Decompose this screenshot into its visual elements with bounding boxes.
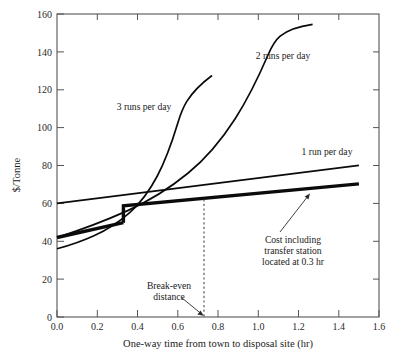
y-tick-20: 20 bbox=[42, 274, 52, 285]
x-tick-0.8: 0.8 bbox=[212, 321, 225, 332]
y-tick-100: 100 bbox=[37, 122, 52, 133]
label-1-run-per-day: 1 run per day bbox=[302, 146, 353, 157]
cost-vs-haul-time-chart: 0 20 40 60 80 100 120 140 160 bbox=[0, 0, 403, 354]
y-axis-ticks bbox=[57, 14, 64, 317]
x-tick-0.6: 0.6 bbox=[172, 321, 185, 332]
y-axis-right-ticks bbox=[373, 52, 379, 279]
transfer-cost-label-line2: transfer station bbox=[264, 245, 321, 256]
series-transfer-cost bbox=[123, 184, 359, 223]
label-3-runs-per-day: 3 runs per day bbox=[117, 101, 172, 112]
x-tick-1.6: 1.6 bbox=[373, 321, 386, 332]
break-even-label-line2: distance bbox=[153, 291, 184, 302]
x-tick-1.2: 1.2 bbox=[292, 321, 305, 332]
x-axis-ticks bbox=[57, 310, 379, 317]
x-tick-0.0: 0.0 bbox=[51, 321, 64, 332]
x-tick-0.4: 0.4 bbox=[131, 321, 144, 332]
series-transfer-cost-prestep bbox=[57, 223, 123, 238]
x-axis-title: One-way time from town to disposal site … bbox=[123, 338, 313, 350]
x-tick-0.2: 0.2 bbox=[91, 321, 104, 332]
transfer-cost-label-line3: located at 0.3 hr bbox=[262, 256, 325, 267]
break-even-arrow-icon bbox=[182, 298, 204, 316]
x-tick-1.4: 1.4 bbox=[333, 321, 346, 332]
y-tick-140: 140 bbox=[37, 47, 52, 58]
transfer-cost-arrow-icon bbox=[280, 193, 310, 232]
y-tick-60: 60 bbox=[42, 198, 52, 209]
y-axis-title: $/Tonne bbox=[11, 158, 22, 193]
x-axis-top-ticks bbox=[97, 14, 338, 20]
chart-figure: 0 20 40 60 80 100 120 140 160 bbox=[0, 0, 403, 354]
plot-frame bbox=[57, 14, 379, 317]
y-tick-80: 80 bbox=[42, 160, 52, 171]
y-tick-120: 120 bbox=[37, 84, 52, 95]
transfer-cost-label-line1: Cost including bbox=[265, 234, 321, 245]
break-even-label-line1: Break-even bbox=[147, 280, 191, 291]
label-2-runs-per-day: 2 runs per day bbox=[256, 50, 311, 61]
y-tick-160: 160 bbox=[37, 9, 52, 20]
x-tick-1.0: 1.0 bbox=[252, 321, 265, 332]
y-tick-40: 40 bbox=[42, 236, 52, 247]
